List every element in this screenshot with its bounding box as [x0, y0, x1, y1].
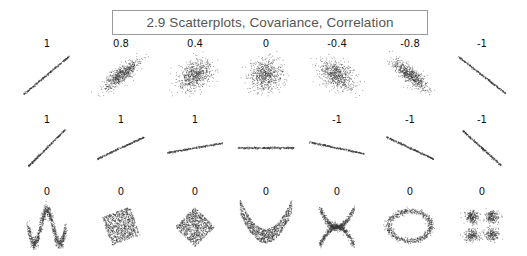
correlation-label: -1	[452, 38, 512, 49]
correlation-label: -1	[380, 114, 440, 125]
correlation-label: -1	[307, 114, 367, 125]
correlation-label: -0.4	[307, 38, 367, 49]
correlation-label: 0	[165, 186, 225, 197]
correlation-label: 0.4	[165, 38, 225, 49]
correlation-label: -0.8	[380, 38, 440, 49]
correlation-label: 0	[452, 186, 512, 197]
scatter-points	[452, 50, 512, 100]
scatter-points	[17, 128, 77, 168]
chart-title: 2.9 Scatterplots, Covariance, Correlatio…	[146, 15, 393, 30]
correlation-label: 1	[165, 114, 225, 125]
scatter-points	[91, 50, 151, 100]
correlation-label: 1	[17, 38, 77, 49]
correlation-label: 1	[17, 114, 77, 125]
scatter-points	[307, 50, 367, 100]
scatter-points	[91, 200, 151, 250]
scatter-points	[380, 50, 440, 100]
correlation-label: -1	[452, 114, 512, 125]
scatter-points	[17, 50, 77, 100]
chart-title-box: 2.9 Scatterplots, Covariance, Correlatio…	[112, 10, 428, 35]
correlation-label: 0.8	[91, 38, 151, 49]
correlation-label: 0	[236, 38, 296, 49]
scatter-points	[380, 128, 440, 168]
correlation-label: 0	[91, 186, 151, 197]
scatter-points	[236, 50, 296, 100]
scatter-points	[165, 128, 225, 168]
scatter-points	[236, 200, 296, 250]
correlation-label: 0	[17, 186, 77, 197]
scatter-points	[452, 128, 512, 168]
scatter-points	[236, 128, 296, 168]
scatter-points	[17, 200, 77, 250]
scatter-points	[380, 200, 440, 250]
correlation-label: 1	[91, 114, 151, 125]
scatter-points	[307, 128, 367, 168]
correlation-label: 0	[380, 186, 440, 197]
scatter-points	[91, 128, 151, 168]
scatter-points	[165, 200, 225, 250]
correlation-label: 0	[307, 186, 367, 197]
correlation-label: 0	[236, 186, 296, 197]
scatter-points	[165, 50, 225, 100]
scatter-points	[307, 200, 367, 250]
scatter-points	[452, 200, 512, 250]
